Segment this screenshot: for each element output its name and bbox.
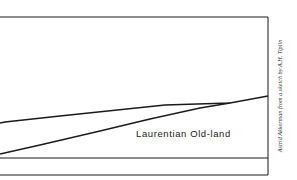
cross-section-diagram bbox=[0, 0, 297, 180]
upper-stratum-line bbox=[0, 96, 268, 123]
illustration-credit: Astrid Akkerman from a sketch by A.H. Ti… bbox=[276, 40, 283, 152]
laurentian-old-land-label: Laurentian Old-land bbox=[136, 128, 231, 139]
